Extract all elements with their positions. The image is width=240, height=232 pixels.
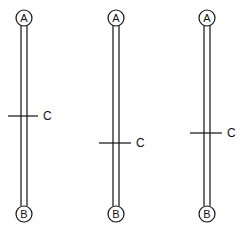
diagram-stage: ABCABCABC	[0, 0, 240, 232]
point-c-label: C	[227, 126, 236, 140]
rod-group-1: ABC	[8, 10, 52, 222]
endpoint-a-label: A	[112, 12, 120, 24]
point-c-label: C	[136, 136, 145, 150]
rod-group-3: ABC	[190, 10, 236, 222]
point-c-label: C	[43, 109, 52, 123]
endpoint-b-label: B	[20, 208, 27, 220]
endpoint-a-label: A	[20, 12, 28, 24]
rod-group-2: ABC	[99, 10, 145, 222]
endpoint-b-label: B	[112, 208, 119, 220]
endpoint-a-label: A	[203, 12, 211, 24]
rods-diagram: ABCABCABC	[0, 0, 240, 232]
endpoint-b-label: B	[203, 208, 210, 220]
